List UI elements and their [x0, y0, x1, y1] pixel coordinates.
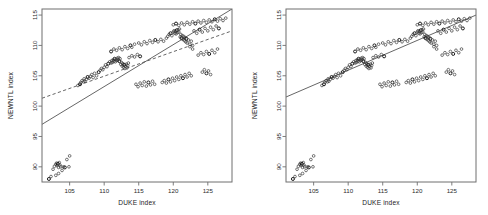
- data-point: [126, 47, 129, 50]
- x-tick-label: 120: [168, 187, 179, 194]
- data-point: [450, 30, 453, 33]
- data-point: [455, 20, 458, 23]
- data-point: [157, 40, 160, 43]
- data-point: [457, 18, 460, 21]
- data-point: [415, 34, 418, 37]
- data-point: [428, 73, 431, 76]
- data-point: [139, 55, 142, 58]
- left-panel: 1051101151201259095100105110115DUKE inde…: [0, 0, 244, 215]
- data-point: [137, 42, 140, 45]
- data-point: [434, 40, 437, 43]
- data-point: [435, 48, 438, 51]
- data-point: [456, 28, 459, 31]
- data-point: [149, 84, 152, 87]
- data-point: [143, 80, 146, 83]
- data-point: [151, 80, 154, 83]
- data-point: [298, 174, 301, 177]
- data-point: [47, 177, 50, 180]
- data-point: [184, 73, 187, 76]
- data-point: [449, 50, 452, 53]
- data-point: [52, 168, 55, 171]
- data-point: [362, 47, 365, 50]
- data-point: [135, 83, 138, 86]
- data-point: [357, 48, 360, 51]
- data-point: [54, 174, 57, 177]
- scatter-plot-figure: 1051101151201259095100105110115DUKE inde…: [0, 0, 488, 215]
- data-point: [435, 20, 438, 23]
- data-point: [209, 73, 212, 76]
- data-point: [296, 168, 299, 171]
- data-point: [197, 54, 200, 57]
- data-point: [110, 50, 113, 53]
- data-point: [222, 19, 225, 22]
- y-tick-label: 110: [31, 40, 38, 50]
- data-point: [374, 54, 377, 57]
- y-tick-label: 105: [275, 70, 282, 81]
- data-point: [305, 169, 308, 172]
- data-point: [395, 80, 398, 83]
- data-point: [425, 77, 428, 80]
- data-point: [397, 83, 400, 86]
- data-point: [121, 48, 124, 51]
- data-point: [202, 19, 205, 22]
- data-point: [133, 43, 136, 46]
- data-point: [113, 48, 116, 51]
- data-point: [421, 24, 424, 27]
- data-point: [212, 28, 215, 31]
- data-point: [455, 49, 458, 52]
- data-point: [205, 50, 208, 53]
- data-point: [460, 48, 463, 51]
- data-point: [200, 51, 203, 54]
- data-point: [66, 158, 69, 161]
- data-point: [153, 83, 156, 86]
- data-point: [406, 40, 409, 43]
- data-point: [147, 81, 150, 84]
- data-point: [421, 78, 424, 81]
- data-point: [312, 165, 315, 168]
- data-point: [175, 76, 178, 79]
- data-point: [93, 72, 96, 75]
- data-point: [95, 74, 98, 77]
- regression-lines: [42, 9, 232, 124]
- data-point: [209, 26, 212, 29]
- data-point: [354, 50, 357, 53]
- data-point: [194, 22, 197, 25]
- data-point: [190, 40, 193, 43]
- data-point: [291, 177, 294, 180]
- y-axis-title: NEWNTL index: [7, 71, 14, 119]
- data-point: [183, 23, 186, 26]
- data-point: [430, 76, 433, 79]
- data-point: [419, 76, 422, 79]
- data-point: [136, 53, 139, 56]
- data-point: [148, 39, 151, 42]
- data-point: [205, 72, 208, 75]
- data-point: [389, 85, 392, 88]
- data-point: [115, 49, 118, 52]
- data-point: [216, 20, 219, 23]
- data-point: [365, 48, 368, 51]
- data-point: [181, 77, 184, 80]
- data-point: [171, 34, 174, 37]
- data-point: [162, 40, 165, 43]
- data-point: [180, 22, 183, 25]
- data-point: [452, 52, 455, 55]
- data-point: [165, 82, 168, 85]
- data-point: [169, 80, 172, 83]
- data-point: [372, 56, 375, 59]
- x-tick-label: 125: [203, 187, 214, 194]
- data-point: [139, 82, 142, 85]
- data-point: [205, 21, 208, 24]
- data-point: [130, 54, 133, 57]
- y-tick-label: 100: [275, 100, 282, 111]
- x-tick-label: 105: [308, 187, 319, 194]
- data-point: [208, 19, 211, 22]
- data-point: [61, 169, 64, 172]
- plot-frame: [286, 9, 476, 182]
- data-points: [47, 17, 227, 181]
- data-point: [198, 28, 201, 31]
- data-point: [368, 45, 371, 48]
- x-tick-label: 115: [134, 187, 144, 194]
- data-point: [128, 56, 131, 59]
- data-point: [401, 40, 404, 43]
- data-point: [146, 42, 149, 45]
